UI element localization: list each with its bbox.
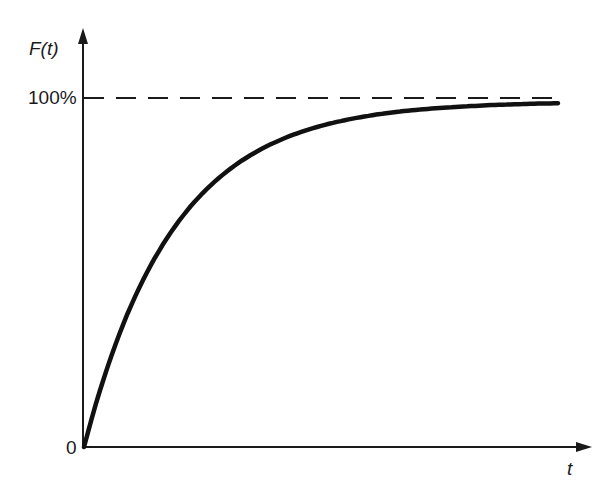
x-axis-arrow-icon: [576, 442, 592, 452]
x-axis-label: t: [567, 458, 572, 480]
y-tick-zero: 0: [66, 437, 77, 459]
y-axis-arrow-icon: [78, 28, 88, 44]
chart-canvas: [0, 0, 615, 493]
y-tick-100-percent: 100%: [28, 87, 77, 109]
curve-f-of-t: [84, 103, 558, 447]
y-axis-label: F(t): [29, 38, 59, 60]
